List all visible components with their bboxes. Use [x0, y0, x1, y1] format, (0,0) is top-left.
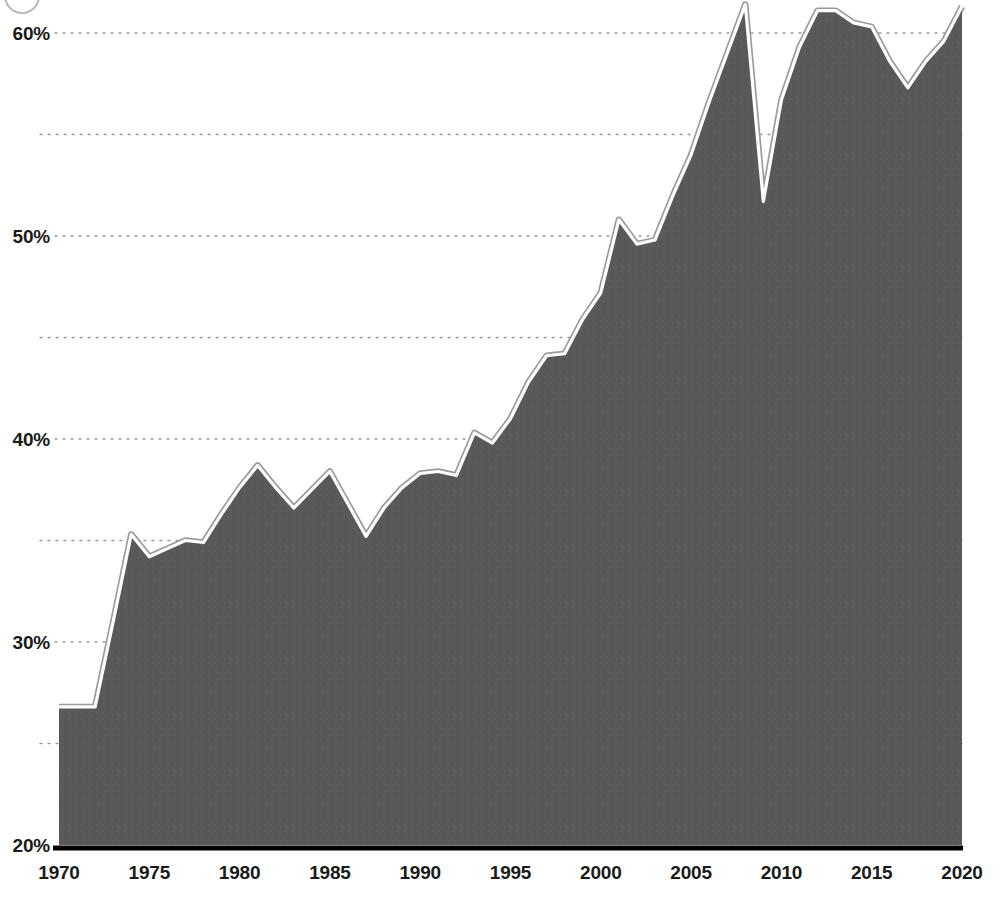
area-chart: 60%50%40%30%20% 197019751980198519901995…: [0, 0, 999, 908]
x-axis-tick-label: 2020: [938, 862, 986, 884]
x-axis-tick-label: 2005: [667, 862, 715, 884]
x-axis-tick-label: 1970: [35, 862, 83, 884]
y-axis-tick-label: 20%: [13, 835, 50, 857]
x-axis-tick-label: 1975: [125, 862, 173, 884]
x-axis-tick-label: 2000: [577, 862, 625, 884]
x-axis-tick-label: 1995: [487, 862, 535, 884]
area-fill: [59, 5, 962, 845]
x-axis-tick-label: 1985: [306, 862, 354, 884]
chart-plot-area: [0, 0, 999, 908]
area-series-group: [59, 5, 962, 845]
x-axis-tick-label: 2015: [848, 862, 896, 884]
y-axis-tick-label: 50%: [13, 226, 50, 248]
x-axis-tick-label: 1980: [216, 862, 264, 884]
x-axis-tick-label: 1990: [396, 862, 444, 884]
y-axis-tick-label: 30%: [13, 632, 50, 654]
y-axis-tick-label: 40%: [13, 429, 50, 451]
x-axis-tick-label: 2010: [757, 862, 805, 884]
y-axis-tick-label: 60%: [13, 23, 50, 45]
